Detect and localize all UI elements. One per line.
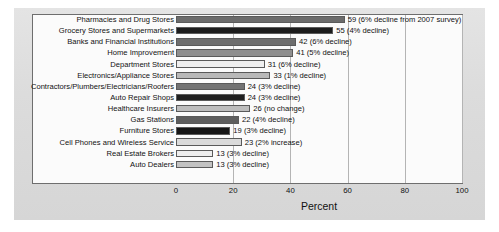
category-label: Department Stores — [0, 60, 174, 69]
category-label: Healthcare Insurers — [0, 104, 174, 113]
x-axis-title: Percent — [176, 200, 462, 212]
x-tick-label: 20 — [229, 186, 238, 195]
bar-container: 13 (3% decline) — [176, 159, 462, 170]
x-tick-label: 60 — [343, 186, 352, 195]
bar-row: Healthcare Insurers26 (no change) — [0, 103, 499, 114]
bar-value-label: 19 (3% decline) — [233, 126, 286, 135]
bar-container: 24 (3% decline) — [176, 92, 462, 103]
category-label: Auto Dealers — [0, 160, 174, 169]
category-label: Pharmacies and Drug Stores — [0, 15, 174, 24]
bar-row: Gas Stations22 (4% decline) — [0, 114, 499, 125]
bar-rows: Pharmacies and Drug Stores59 (6% decline… — [0, 14, 499, 170]
bar — [176, 138, 242, 145]
bar-row: Home Improvement41 (5% decline) — [0, 47, 499, 58]
bar-value-label: 24 (3% decline) — [248, 82, 301, 91]
bar-value-label: 26 (no change) — [253, 104, 304, 113]
bar — [176, 150, 213, 157]
bar-container: 41 (5% decline) — [176, 47, 462, 58]
chart-figure: Pharmacies and Drug Stores59 (6% decline… — [0, 0, 499, 232]
category-label: Cell Phones and Wireless Service — [0, 138, 174, 147]
bar-value-label: 55 (4% decline) — [336, 26, 389, 35]
bar-row: Auto Repair Shops24 (3% decline) — [0, 92, 499, 103]
bar — [176, 161, 213, 168]
bar-container: 13 (3% decline) — [176, 148, 462, 159]
bar-container: 19 (3% decline) — [176, 125, 462, 136]
bar — [176, 16, 345, 23]
bar-value-label: 13 (3% decline) — [216, 149, 269, 158]
bar-value-label: 41 (5% decline) — [296, 48, 349, 57]
bar-container: 22 (4% decline) — [176, 114, 462, 125]
bar-value-label: 13 (3% decline) — [216, 160, 269, 169]
bar-value-label: 31 (6% decline) — [268, 60, 321, 69]
bar — [176, 116, 239, 123]
bar-container: 24 (3% decline) — [176, 81, 462, 92]
category-label: Gas Stations — [0, 115, 174, 124]
bar-container: 55 (4% decline) — [176, 25, 462, 36]
category-label: Real Estate Brokers — [0, 149, 174, 158]
category-label: Grocery Stores and Supermarkets — [0, 26, 174, 35]
bar-value-label: 22 (4% decline) — [242, 115, 295, 124]
bar-container: 42 (6% decline) — [176, 36, 462, 47]
bar-row: Real Estate Brokers13 (3% decline) — [0, 148, 499, 159]
bar — [176, 72, 270, 79]
bar — [176, 83, 245, 90]
x-tick-label: 100 — [455, 186, 468, 195]
x-tick-label: 80 — [400, 186, 409, 195]
bar-value-label: 59 (6% decline from 2007 survey) — [348, 15, 462, 24]
bar — [176, 38, 296, 45]
bar-row: Pharmacies and Drug Stores59 (6% decline… — [0, 14, 499, 25]
x-axis-ticks: 020406080100 — [176, 186, 462, 198]
bar-value-label: 42 (6% decline) — [299, 37, 352, 46]
x-tick-label: 0 — [174, 186, 178, 195]
bar — [176, 105, 250, 112]
bar-row: Furniture Stores19 (3% decline) — [0, 125, 499, 136]
bar-container: 31 (6% decline) — [176, 59, 462, 70]
bar — [176, 49, 293, 56]
category-label: Furniture Stores — [0, 126, 174, 135]
bar-row: Department Stores31 (6% decline) — [0, 59, 499, 70]
bar-row: Banks and Financial Institutions42 (6% d… — [0, 36, 499, 47]
bar-row: Grocery Stores and Supermarkets55 (4% de… — [0, 25, 499, 36]
bar-value-label: 24 (3% decline) — [248, 93, 301, 102]
category-label: Banks and Financial Institutions — [0, 37, 174, 46]
bar — [176, 127, 230, 134]
category-label: Electronics/Appliance Stores — [0, 71, 174, 80]
bar-container: 59 (6% decline from 2007 survey) — [176, 14, 462, 25]
bar — [176, 60, 265, 67]
bar-container: 26 (no change) — [176, 103, 462, 114]
bar-row: Auto Dealers13 (3% decline) — [0, 159, 499, 170]
bar-row: Contractors/Plumbers/Electricians/Roofer… — [0, 81, 499, 92]
bar-row: Cell Phones and Wireless Service23 (2% i… — [0, 137, 499, 148]
category-label: Contractors/Plumbers/Electricians/Roofer… — [0, 82, 174, 91]
bar — [176, 27, 333, 34]
bar — [176, 94, 245, 101]
category-label: Auto Repair Shops — [0, 93, 174, 102]
bar-container: 23 (2% increase) — [176, 137, 462, 148]
bar-value-label: 33 (1% decline) — [273, 71, 326, 80]
bar-container: 33 (1% decline) — [176, 70, 462, 81]
bar-row: Electronics/Appliance Stores33 (1% decli… — [0, 70, 499, 81]
bar-value-label: 23 (2% increase) — [245, 138, 302, 147]
x-tick-label: 40 — [286, 186, 295, 195]
category-label: Home Improvement — [0, 48, 174, 57]
